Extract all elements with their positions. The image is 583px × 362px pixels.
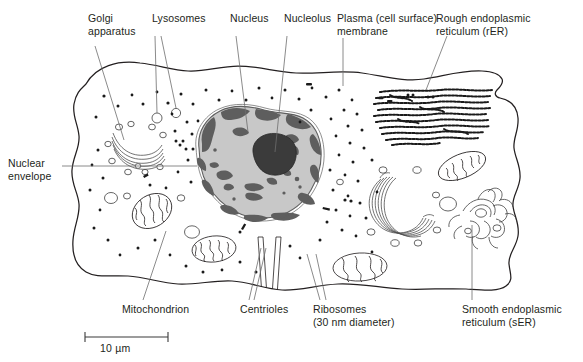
label-smooth-er: Smooth endoplasmic reticulum (sER) xyxy=(462,303,562,328)
golgi-apparatus-right xyxy=(367,167,441,247)
mitochondrion-upper-left xyxy=(126,186,179,235)
leader-centriole-a xyxy=(249,248,261,300)
smooth-endoplasmic-reticulum xyxy=(440,188,518,249)
label-rough-er: Rough endoplasmic reticulum (rER) xyxy=(436,12,531,37)
leader-ribosome-a xyxy=(307,254,320,300)
label-nucleolus: Nucleolus xyxy=(284,12,331,25)
label-lysosomes: Lysosomes xyxy=(152,12,206,25)
lysosomes xyxy=(152,108,181,123)
label-golgi-apparatus: Golgi apparatus xyxy=(88,12,136,37)
scale-bar-label: 10 µm xyxy=(100,342,130,354)
mitochondrion-mid-left xyxy=(191,234,237,264)
leader-ribosome-b xyxy=(316,254,326,300)
mitochondrion-bottom xyxy=(332,252,387,283)
label-ribosomes: Ribosomes (30 nm diameter) xyxy=(313,303,395,328)
label-nucleus: Nucleus xyxy=(230,12,269,25)
label-mitochondrion: Mitochondrion xyxy=(122,303,189,316)
label-centrioles: Centrioles xyxy=(240,303,288,316)
leader-centriole-b xyxy=(254,248,266,300)
leader-rough-er xyxy=(426,36,447,90)
mitochondrion-right xyxy=(434,146,489,187)
leader-golgi xyxy=(95,46,124,140)
leader-lysosome-b xyxy=(161,36,176,108)
scale-bar xyxy=(85,332,168,342)
cell-diagram-figure: .ink { stroke:#231f20; fill:none; } .thi… xyxy=(0,0,583,362)
label-nuclear-envelope: Nuclear envelope xyxy=(8,157,51,182)
leader-lysosome-a xyxy=(155,36,157,113)
golgi-apparatus-left xyxy=(105,121,167,175)
label-plasma-membrane: Plasma (cell surface) membrane xyxy=(337,12,437,37)
